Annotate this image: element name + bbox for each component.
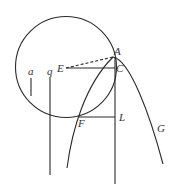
label-q: q (47, 65, 53, 77)
dashed-segment-ea (66, 57, 113, 68)
label-e: E (56, 62, 64, 74)
label-l: L (118, 111, 125, 123)
geometry-diagram: A C E F L G a q (0, 0, 175, 194)
label-a-segment: a (28, 65, 34, 77)
label-f: F (77, 117, 85, 129)
label-c: C (116, 62, 124, 74)
label-g: G (157, 122, 165, 134)
label-a-point: A (113, 45, 121, 57)
